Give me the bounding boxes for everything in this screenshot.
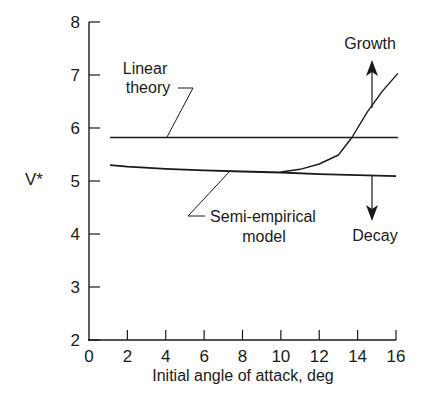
y-axis-label: V* [25, 170, 43, 189]
chart: 2345678 0246810121416 V* Initial angle o… [0, 0, 427, 407]
linear-theory-label-line1: Linear [123, 60, 168, 77]
x-tick-label: 8 [238, 347, 247, 366]
y-ticks: 2345678 [71, 13, 100, 350]
x-tick-label: 16 [387, 347, 406, 366]
decay-label: Decay [352, 227, 397, 244]
x-tick-label: 6 [199, 347, 208, 366]
y-tick-label: 5 [71, 172, 80, 191]
semi-empirical-label-line1: Semi-empirical [210, 208, 316, 225]
x-tick-label: 14 [348, 347, 367, 366]
x-ticks: 0246810121416 [84, 330, 405, 366]
y-tick-label: 8 [71, 13, 80, 32]
semi-empirical-label-line2: model [242, 228, 286, 245]
linear-theory-leader-line [167, 88, 193, 137]
y-tick-label: 6 [71, 119, 80, 138]
x-axis-label: Initial angle of attack, deg [152, 367, 333, 384]
y-tick-label: 2 [71, 331, 80, 350]
x-tick-label: 12 [310, 347, 329, 366]
x-tick-label: 10 [271, 347, 290, 366]
y-tick-label: 3 [71, 278, 80, 297]
linear-theory-label-line2: theory [126, 79, 170, 96]
growth-label: Growth [344, 35, 396, 52]
growth-curve [281, 73, 398, 172]
x-tick-label: 2 [123, 347, 132, 366]
y-tick-label: 4 [71, 225, 80, 244]
y-tick-label: 7 [71, 66, 80, 85]
x-tick-label: 0 [84, 347, 93, 366]
semi-empirical-curve [110, 165, 396, 176]
x-tick-label: 4 [161, 347, 170, 366]
